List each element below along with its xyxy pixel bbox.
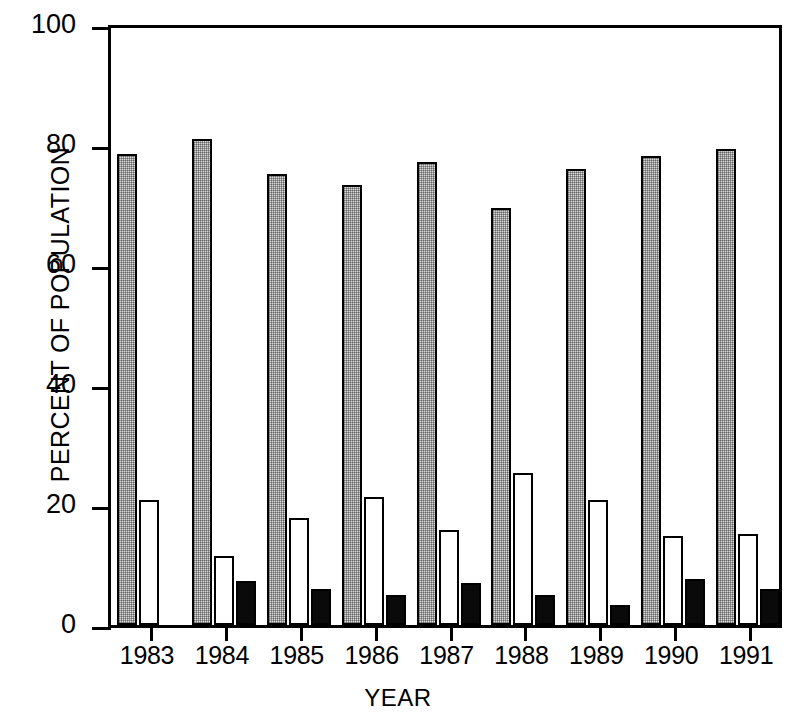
y-axis-tick [92, 627, 111, 630]
bar-juvenile-1984 [236, 581, 256, 625]
bar-juvenile-1986 [386, 595, 406, 625]
bar-subadult-1989 [588, 500, 608, 625]
bar-juvenile-1991 [760, 589, 780, 625]
bar-subadult-1986 [364, 497, 384, 625]
bar-adult-1983 [117, 154, 137, 625]
bar-adult-1989 [566, 169, 586, 625]
bar-subadult-1990 [663, 536, 683, 625]
y-axis-tick-label: 60 [0, 251, 76, 278]
y-axis-tick [92, 507, 111, 510]
bar-subadult-1983 [139, 500, 159, 625]
x-axis-tick [150, 625, 153, 641]
bar-subadult-1987 [439, 530, 459, 625]
bar-subadult-1985 [289, 518, 309, 625]
y-axis-tick-label: 100 [0, 11, 76, 38]
bar-adult-1987 [417, 162, 437, 625]
y-axis-tick-label: 80 [0, 131, 76, 158]
x-axis-tick [450, 625, 453, 641]
y-axis-tick [92, 27, 111, 30]
y-axis-tick [92, 147, 111, 150]
bar-juvenile-1989 [610, 605, 630, 625]
plot-area [108, 25, 782, 628]
x-axis-tick [225, 625, 228, 641]
bar-juvenile-1988 [535, 595, 555, 625]
x-axis-title: YEAR [0, 684, 796, 712]
x-axis-tick [524, 625, 527, 641]
y-axis-title: PERCENT OF POPULATION [46, 105, 75, 525]
bar-adult-1985 [267, 174, 287, 625]
y-axis-tick-label: 0 [0, 611, 76, 638]
x-axis-tick [674, 625, 677, 641]
y-axis-tick [92, 387, 111, 390]
bar-juvenile-1987 [461, 583, 481, 625]
x-axis-tick-label: 1991 [691, 641, 796, 670]
bar-adult-1988 [491, 208, 511, 625]
bar-adult-1991 [716, 149, 736, 625]
y-axis-tick-label: 20 [0, 491, 76, 518]
y-axis-tick [92, 267, 111, 270]
bar-juvenile-1990 [685, 579, 705, 625]
x-axis-tick [749, 625, 752, 641]
bar-adult-1986 [342, 185, 362, 625]
bar-adult-1984 [192, 139, 212, 625]
bar-subadult-1984 [214, 556, 234, 625]
bar-chart-figure: PERCENT OF POPULATION YEAR Age profile a… [0, 0, 796, 717]
bar-adult-1990 [641, 156, 661, 625]
bar-subadult-1991 [738, 534, 758, 625]
x-axis-tick [375, 625, 378, 641]
bar-subadult-1988 [513, 473, 533, 625]
x-axis-tick [599, 625, 602, 641]
y-axis-tick-label: 40 [0, 371, 76, 398]
bar-juvenile-1985 [311, 589, 331, 625]
x-axis-tick [300, 625, 303, 641]
